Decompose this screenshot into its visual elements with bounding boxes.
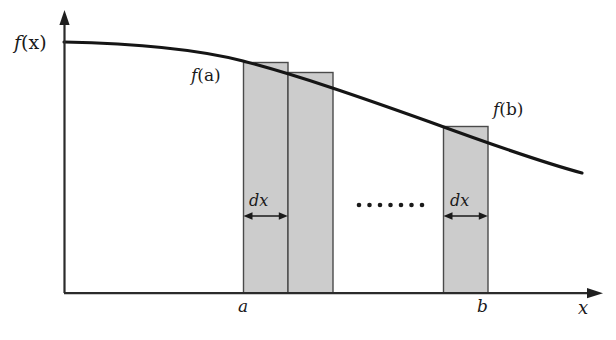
curve-label-fa: f(a) <box>191 67 221 84</box>
rect-a-first <box>244 63 289 294</box>
x-axis-label: x <box>578 299 588 317</box>
fx-fn: f <box>14 31 21 53</box>
ellipsis-dots <box>357 203 425 208</box>
dx-left-x: x <box>259 191 268 210</box>
fx-arg: (x) <box>21 31 47 53</box>
rect-a-second <box>288 73 333 294</box>
curve-label-fx: f(x) <box>14 33 47 52</box>
dx-label-right: dx <box>450 193 469 209</box>
horizontal-axis-arrowhead <box>587 288 603 298</box>
tick-label-a: a <box>238 298 248 315</box>
dx-right-x: x <box>460 191 469 210</box>
vertical-axis-arrowhead <box>59 10 69 25</box>
tick-label-b: b <box>477 298 488 315</box>
dx-measure-arrows <box>244 212 488 219</box>
dx-left-d: d <box>249 191 259 210</box>
fb-arg: (b) <box>499 99 523 119</box>
riemann-rectangles <box>244 63 489 294</box>
riemann-sum-figure: f(x) f(a) f(b) dx dx a b x <box>0 0 616 340</box>
figure-canvas <box>0 0 616 340</box>
fa-arg: (a) <box>197 65 220 85</box>
dx-label-left: dx <box>249 193 268 209</box>
curve-label-fb: f(b) <box>493 101 523 118</box>
dx-right-d: d <box>450 191 460 210</box>
